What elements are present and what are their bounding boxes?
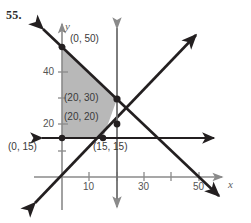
point-20-20 (114, 121, 121, 128)
x-tick-label-30: 30 (138, 181, 149, 192)
point-label-0-15: (0, 15) (8, 141, 37, 152)
x-axis-label: x (228, 178, 233, 190)
point-label-20-30: (20, 30) (64, 92, 98, 103)
point-20-30 (113, 95, 120, 102)
y-axis-label: y (65, 20, 70, 32)
point-label-0-50: (0, 50) (70, 33, 99, 44)
point-0-50 (59, 44, 65, 50)
x-tick-label-50: 50 (193, 181, 204, 192)
y-tick-label-40: 40 (43, 66, 54, 77)
figure-container: 55. (0, 0, 251, 223)
point-label-15-15: (15, 15) (93, 141, 127, 152)
coordinate-plot (0, 0, 251, 223)
x-tick-label-10: 10 (83, 181, 94, 192)
point-label-20-20: (20, 20) (64, 111, 98, 122)
point-0-15 (59, 135, 65, 141)
y-tick-label-20: 20 (43, 118, 54, 129)
